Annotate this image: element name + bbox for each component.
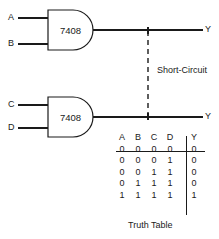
cell-d: 1 [162,167,178,179]
short-circuit-label: Short-Circuit [157,66,207,75]
truth-table-header-c: C [146,132,162,144]
cell-b: 0 [130,167,146,179]
truth-table-header-y: Y [178,132,203,144]
cell-b: 1 [130,178,146,190]
truth-table-header-row: A B C D Y [114,132,203,144]
cell-y: 0 [178,167,203,179]
cell-a: 1 [114,190,130,202]
and-gate-1-part-number: 7408 [60,26,81,36]
cell-c: 0 [146,155,162,167]
and-gate-1 [18,10,203,50]
cell-y: 0 [178,144,203,156]
cell-c: 1 [146,167,162,179]
table-row: 0 0 0 0 0 [114,144,203,156]
table-row: 0 0 0 1 0 [114,155,203,167]
cell-y: 0 [178,155,203,167]
cell-a: 0 [114,155,130,167]
truth-table-header-a: A [114,132,130,144]
and-gate-2 [18,97,203,137]
cell-a: 0 [114,144,130,156]
truth-table: A B C D Y 0 0 0 0 0 0 0 0 [114,132,210,202]
output-label-y-bottom: Y [205,112,211,121]
cell-d: 1 [162,190,178,202]
input-label-d: D [8,123,15,132]
output-label-y-top: Y [205,25,211,34]
cell-a: 0 [114,178,130,190]
and-gate-2-part-number: 7408 [60,113,81,123]
cell-d: 0 [162,144,178,156]
table-row: 1 1 1 1 1 [114,190,203,202]
logic-diagram-figure: A B C D Y Y 7408 7408 Short-Circuit A B … [0,0,219,239]
table-row: 0 1 1 1 0 [114,178,203,190]
cell-b: 0 [130,155,146,167]
truth-table-grid: A B C D Y 0 0 0 0 0 0 0 0 [114,132,203,202]
truth-table-header-d: D [162,132,178,144]
input-label-b: B [8,39,14,48]
cell-b: 0 [130,144,146,156]
input-label-a: A [8,13,14,22]
cell-c: 0 [146,144,162,156]
truth-table-caption: Truth Table [128,221,173,230]
cell-c: 1 [146,190,162,202]
cell-c: 1 [146,178,162,190]
cell-y: 0 [178,178,203,190]
cell-d: 1 [162,178,178,190]
cell-b: 1 [130,190,146,202]
cell-y: 1 [178,190,203,202]
cell-d: 1 [162,155,178,167]
cell-a: 0 [114,167,130,179]
input-label-c: C [8,100,15,109]
circuit-schematic [0,0,219,239]
truth-table-header-b: B [130,132,146,144]
table-row: 0 0 1 1 0 [114,167,203,179]
